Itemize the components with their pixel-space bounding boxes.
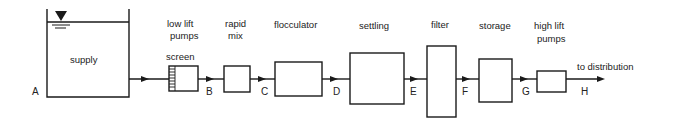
- point-a-label: A: [32, 86, 39, 98]
- arrow-icon: [258, 76, 266, 82]
- arrow-icon: [410, 76, 418, 82]
- arrow-icon: [462, 76, 470, 82]
- supply-label: supply: [70, 54, 97, 66]
- arrow-icon: [520, 76, 528, 82]
- screen-label: screen: [166, 51, 195, 63]
- flocculator-label: flocculator: [274, 19, 317, 31]
- point-f-label: F: [462, 86, 468, 98]
- filter-box: [427, 46, 456, 117]
- rapid-mix-box: [224, 66, 250, 92]
- point-e-label: E: [410, 86, 417, 98]
- arrow-icon: [330, 76, 338, 82]
- rapid-mix-label-line2: mix: [228, 30, 243, 42]
- flocculator-box: [275, 62, 322, 96]
- arrow-icon: [597, 76, 605, 82]
- storage-label: storage: [479, 20, 511, 32]
- point-g-label: G: [522, 86, 530, 98]
- high-lift-pumps-label-line1: high lift: [534, 20, 564, 32]
- arrow-icon: [141, 76, 149, 82]
- high-lift-pumps-label-line2: pumps: [537, 33, 566, 45]
- screen-icon: [169, 66, 175, 91]
- filter-label: filter: [431, 19, 449, 31]
- water-level-icon: [55, 11, 67, 21]
- point-d-label: D: [333, 86, 340, 98]
- rapid-mix-label-line1: rapid: [225, 18, 246, 30]
- storage-box: [479, 59, 512, 102]
- low-lift-pumps-label-line1: low lift: [167, 18, 193, 30]
- settling-box: [350, 53, 404, 104]
- point-c-label: C: [261, 86, 268, 98]
- point-h-label: H: [581, 86, 588, 98]
- high-lift-pump-box: [537, 71, 566, 92]
- to-distribution-label: to distribution: [577, 61, 634, 73]
- settling-label: settling: [359, 20, 389, 32]
- point-b-label: B: [206, 86, 213, 98]
- low-lift-pumps-label-line2: pumps: [170, 30, 199, 42]
- arrow-icon: [206, 76, 214, 82]
